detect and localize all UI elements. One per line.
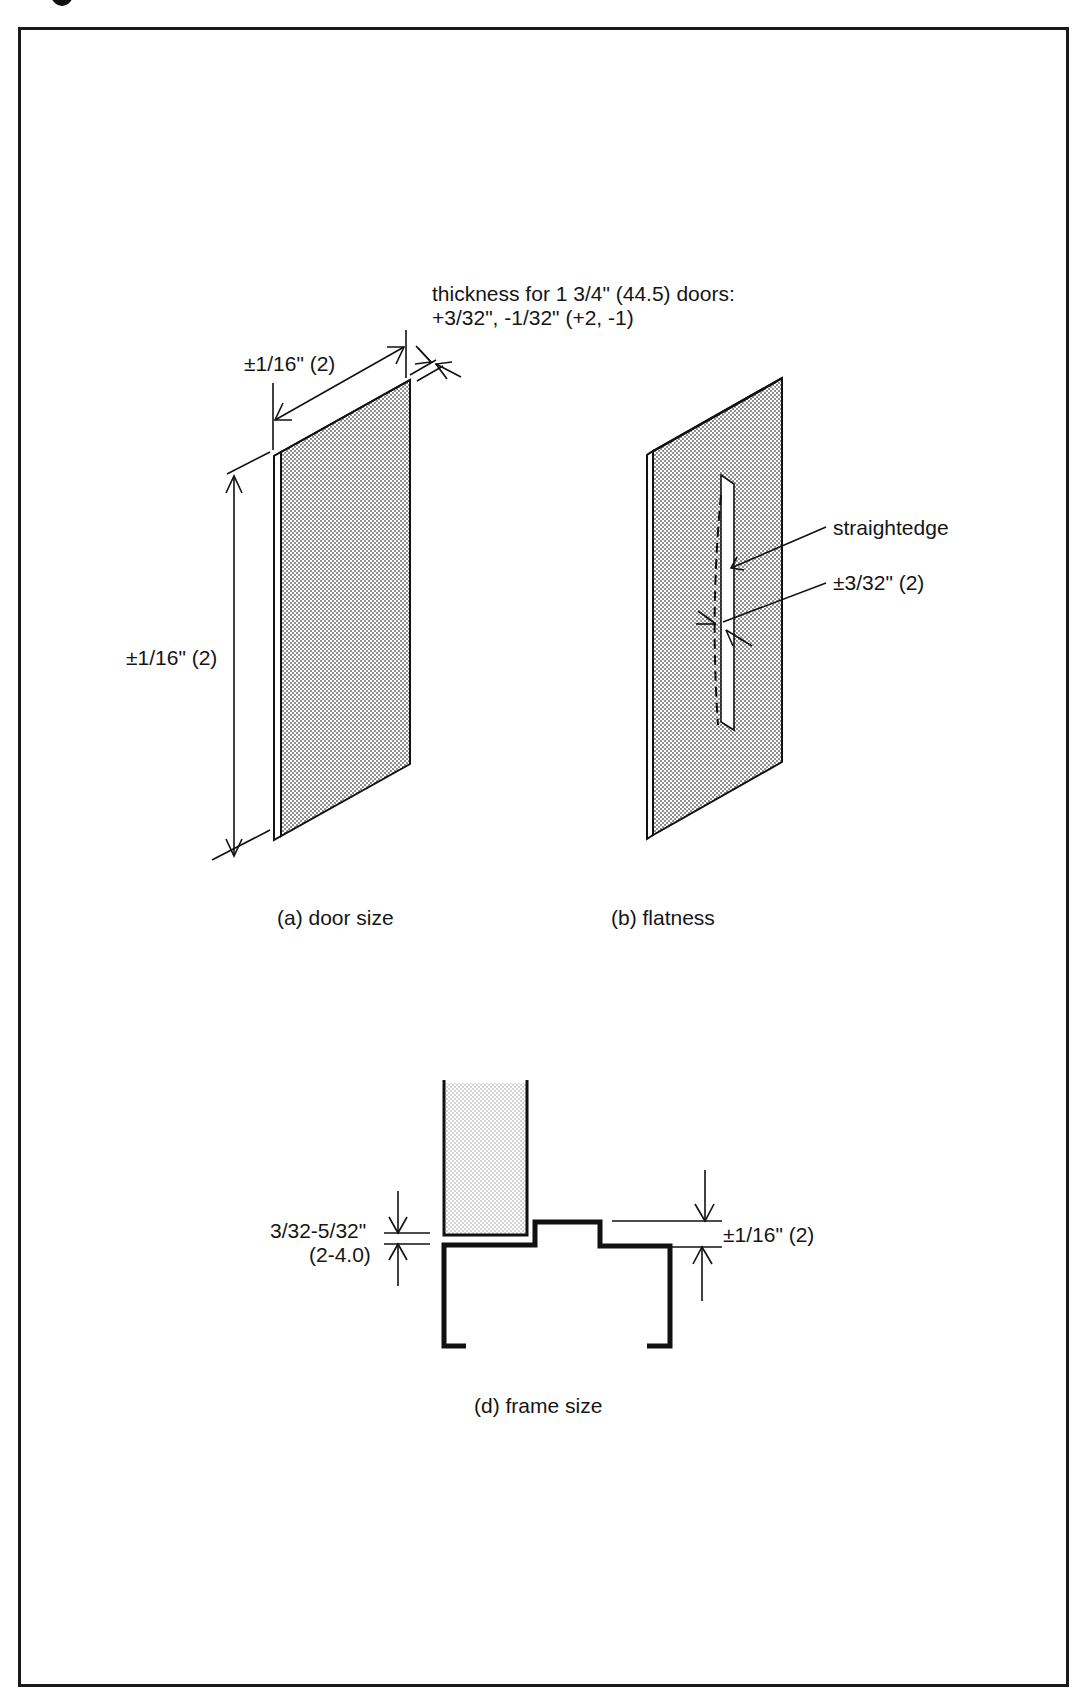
door-tolerance-diagram <box>0 0 1087 1700</box>
thickness-label-line2: +3/32", -1/32" (+2, -1) <box>432 306 634 330</box>
frame-tolerance-label: ±1/16" (2) <box>723 1223 814 1247</box>
clearance-label-line1: 3/32-5/32" <box>270 1219 366 1243</box>
panel-b-door <box>647 378 782 839</box>
panel-d-door-section <box>444 1080 527 1235</box>
clearance-label-line2: (2-4.0) <box>309 1243 371 1267</box>
flatness-tolerance-label: ±3/32" (2) <box>833 571 924 595</box>
thickness-label-line1: thickness for 1 3/4" (44.5) doors: <box>432 282 735 306</box>
straightedge-label: straightedge <box>833 516 949 540</box>
caption-door-size: (a) door size <box>277 906 394 930</box>
caption-frame-size: (d) frame size <box>474 1394 602 1418</box>
height-tolerance-label: ±1/16" (2) <box>126 646 217 670</box>
width-tolerance-label: ±1/16" (2) <box>244 352 335 376</box>
panel-a-door <box>274 380 410 840</box>
caption-flatness: (b) flatness <box>611 906 715 930</box>
panel-d-frame-section <box>444 1222 670 1346</box>
